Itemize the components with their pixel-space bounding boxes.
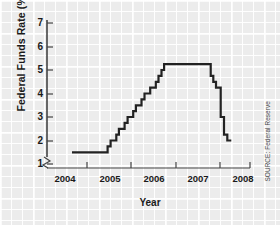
data-series-line — [72, 64, 231, 152]
x-tick-marks — [87, 162, 250, 168]
source-note: SOURCE: Federal Reserve — [264, 94, 271, 182]
chart-figure: Federal Funds Rate (%) 7 6 5 4 3 2 1 200… — [0, 0, 280, 225]
plot-area — [0, 0, 280, 225]
axis-break-icon — [43, 157, 50, 168]
y-tick-marks — [47, 23, 53, 164]
